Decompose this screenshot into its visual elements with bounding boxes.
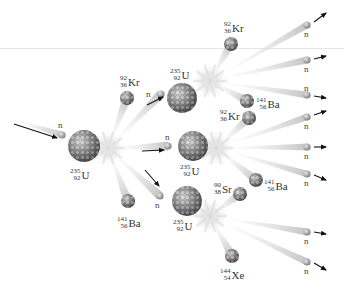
element-symbol: Ba [268,99,280,110]
neutron [164,142,171,149]
isotope-label-ba: 14156Ba [117,214,141,230]
neutron [303,56,310,63]
element-symbol: U [82,170,90,181]
nucleus-ba [249,173,263,187]
nucleus-sr [233,187,247,201]
atomic-number: 36 [224,28,231,35]
atomic-number: 92 [173,226,184,233]
arrow-icon [314,111,326,115]
isotope-numbers: 9236 [224,21,231,35]
isotope-numbers: 9236 [120,75,127,89]
neutron [303,258,310,265]
isotope-label-u: 23592U [170,66,189,82]
neutron-label: n [304,30,309,39]
nucleus-kr [120,91,134,105]
arrows-group [14,13,326,270]
arrow-icon [314,175,326,180]
isotope-label-kr: 9236Kr [224,19,244,35]
isotope-numbers: 14156 [256,97,267,111]
arrow-icon [142,150,164,151]
arrow-icon [314,56,326,59]
nucleus-u [172,186,202,216]
neutron-label: n [304,179,309,188]
isotope-numbers: 23592 [180,164,191,178]
element-symbol: Kr [128,77,140,88]
arrow-icon [314,13,326,22]
arrow-icon [314,263,326,270]
atomic-number: 92 [180,171,191,178]
nucleus-u [178,131,208,161]
neutron [156,192,163,199]
isotope-numbers: 23592 [170,68,181,82]
neutron-label: n [304,152,309,161]
element-symbol: Ba [129,218,141,229]
nucleus-u [68,130,100,162]
isotope-label-u: 23592U [180,162,199,178]
isotope-label-sr: 9038Sr [214,180,232,196]
neutron-label: n [146,90,151,99]
atomic-number: 54 [220,275,231,282]
isotope-numbers: 14156 [117,216,128,230]
isotope-label-kr: 9236Kr [220,107,240,123]
arrow-icon [314,96,326,98]
atomic-number: 56 [256,104,267,111]
neutron [303,113,310,120]
neutron-label: n [165,133,170,142]
atomic-number: 36 [120,82,127,89]
element-symbol: Ba [276,181,288,192]
atomic-number: 38 [214,189,221,196]
flash-burst [192,63,228,99]
element-symbol: U [185,221,193,232]
neutron-label: n [304,122,309,131]
element-symbol: Kr [232,23,244,34]
nucleus-kr [224,37,238,51]
neutron [303,228,310,235]
neutron [303,143,310,150]
nucleus-xe [225,249,239,263]
isotope-numbers: 14156 [264,179,275,193]
particle-trails [7,22,309,265]
element-symbol: Sr [222,184,232,195]
neutron-label: n [304,237,309,246]
neutron-label: n [58,121,63,130]
isotope-label-ba: 14156Ba [256,95,280,111]
neutron-label: n [304,267,309,276]
isotope-numbers: 23592 [70,168,81,182]
isotope-label-u: 23592U [173,217,192,233]
element-symbol: U [182,70,190,81]
isotope-numbers: 23592 [173,219,184,233]
neutron [157,90,164,97]
neutron-label: n [304,84,309,93]
nucleus-u [167,83,197,113]
atomic-number: 56 [117,223,128,230]
neutron [303,170,310,177]
element-symbol: Kr [228,111,240,122]
isotope-label-xe: 14454Xe [220,266,244,282]
trail [7,115,63,139]
atomic-number: 56 [264,186,275,193]
atomic-number: 92 [70,175,81,182]
neutron [303,21,310,28]
isotope-numbers: 14454 [220,268,231,282]
isotope-numbers: 9236 [220,109,227,123]
isotope-label-ba: 14156Ba [264,177,288,193]
fission-chain-diagram: 23592U23592U23592U23592U9236Kr14156Ba923… [0,0,344,291]
isotope-label-kr: 9236Kr [120,73,140,89]
atomic-number: 92 [170,75,181,82]
nucleus-ba [121,194,135,208]
nucleus-kr [242,111,256,125]
nucleus-ba [240,94,254,108]
element-symbol: Xe [232,270,245,281]
arrow-icon [314,232,326,234]
element-symbol: U [192,166,200,177]
neutron [58,131,65,138]
isotope-label-u: 23592U [70,166,89,182]
atomic-number: 36 [220,116,227,123]
diagram-canvas [0,0,344,291]
neutron-label: n [304,65,309,74]
neutron-label: n [155,201,160,210]
isotope-numbers: 9038 [214,182,221,196]
